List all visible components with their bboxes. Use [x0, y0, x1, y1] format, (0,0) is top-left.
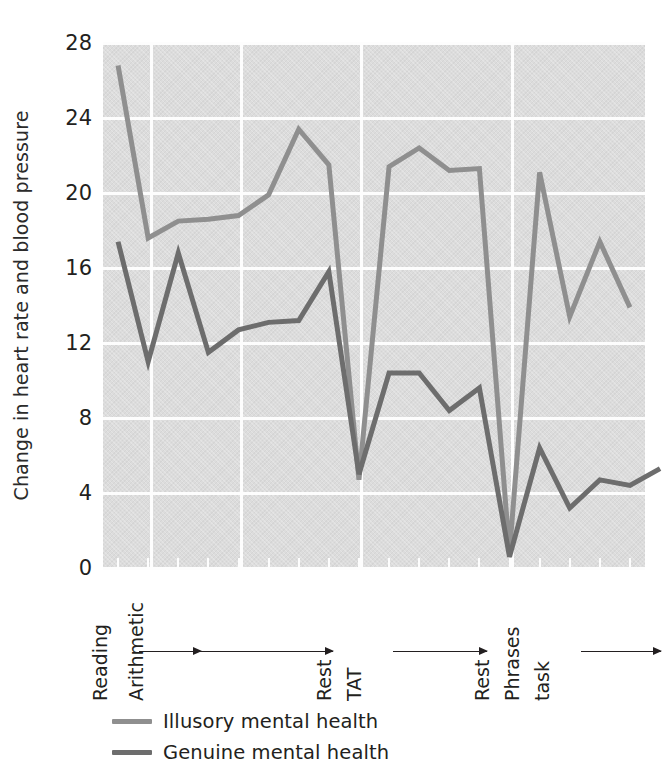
y-tick-12: 12	[46, 331, 92, 355]
y-tick-28: 28	[46, 31, 92, 55]
y-tick-4: 4	[46, 481, 92, 505]
plot-area	[103, 43, 645, 568]
y-tick-0: 0	[46, 556, 92, 580]
x-stage-label-tat-3: TAT	[343, 668, 365, 701]
legend-row-0: Illusory mental health	[112, 706, 532, 737]
x-stage-label-phrases-5: Phrases	[501, 627, 523, 701]
y-tick-16: 16	[46, 256, 92, 280]
legend-swatch-icon	[112, 750, 152, 755]
legend-swatch-icon	[112, 719, 152, 724]
y-tick-20: 20	[46, 181, 92, 205]
x-stage-label-reading-0: Reading	[89, 624, 111, 701]
x-stage-label-rest-4: Rest	[471, 660, 493, 701]
legend-label: Genuine mental health	[163, 741, 389, 764]
x-stage-label-task-6: task	[531, 661, 553, 701]
series-lines	[103, 43, 645, 568]
legend-row-1: Genuine mental health	[112, 737, 532, 768]
y-tick-24: 24	[46, 106, 92, 130]
x-axis-stage-labels: ReadingArithmeticRestTATRestPhrasestask	[103, 583, 669, 703]
y-axis-label: Change in heart rate and blood pressure	[6, 43, 36, 568]
y-axis-tick-labels: 0481216202428	[42, 0, 92, 779]
x-axis-arrow-4	[581, 651, 661, 652]
x-stage-label-rest-2: Rest	[313, 660, 335, 701]
x-axis-arrow-3	[393, 651, 487, 652]
chart-figure: Change in heart rate and blood pressure …	[0, 0, 669, 779]
x-axis-arrow-2	[183, 651, 333, 652]
legend-label: Illusory mental health	[163, 710, 378, 733]
chart-legend: Illusory mental healthGenuine mental hea…	[112, 706, 532, 768]
y-tick-8: 8	[46, 406, 92, 430]
